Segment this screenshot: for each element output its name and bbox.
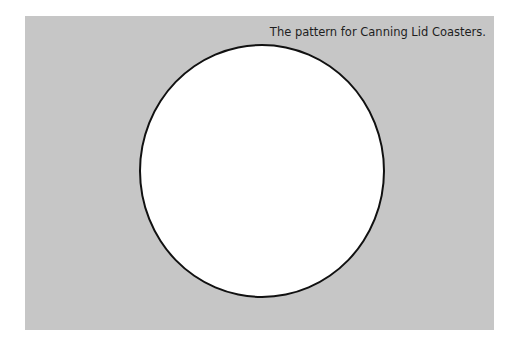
pattern-figure: The pattern for Canning Lid Coasters. bbox=[25, 16, 494, 330]
figure-caption: The pattern for Canning Lid Coasters. bbox=[270, 25, 486, 39]
circle-pattern-outline bbox=[139, 44, 385, 298]
